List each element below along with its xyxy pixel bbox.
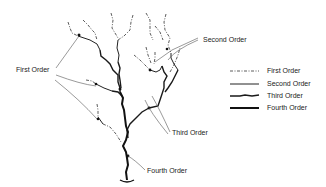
legend-swatch-third-order	[230, 95, 259, 96]
legend-label-fourth-order: Fourth Order	[267, 104, 308, 111]
legend-item-third-order: Third Order	[230, 92, 303, 99]
first-order-streams	[68, 13, 180, 142]
callout-second-order: Second Order	[203, 36, 247, 43]
leader-lines	[55, 36, 198, 170]
legend-label-first-order: First Order	[267, 67, 301, 74]
legend-label-second-order: Second Order	[267, 80, 311, 87]
callout-labels: First Order Second Order Third Order Fou…	[16, 36, 247, 174]
callout-third-order: Third Order	[172, 129, 208, 136]
second-order-streams	[78, 36, 178, 124]
callout-fourth-order: Fourth Order	[147, 167, 188, 174]
callout-first-order: First Order	[16, 66, 50, 73]
third-order-streams	[100, 50, 178, 138]
legend-item-first-order: First Order	[230, 67, 301, 74]
legend: First Order Second Order Third Order Fou…	[230, 67, 311, 111]
stream-order-diagram: First Order Second Order Third Order Fou…	[0, 0, 326, 187]
fourth-order-stream	[120, 92, 134, 182]
legend-item-fourth-order: Fourth Order	[230, 104, 308, 111]
legend-label-third-order: Third Order	[267, 92, 303, 99]
legend-item-second-order: Second Order	[230, 80, 311, 87]
